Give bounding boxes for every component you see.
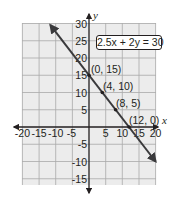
x-axis-label: x bbox=[161, 114, 167, 126]
point-label: (0, 15) bbox=[91, 63, 121, 75]
coordinate-plane: x y -20 -15 -10 -5 5 10 15 20 30 25 20 1… bbox=[0, 0, 176, 204]
x-tick-label: -15 bbox=[32, 127, 47, 139]
y-tick-label: 10 bbox=[75, 87, 87, 99]
point-label: (12, 0) bbox=[129, 114, 159, 126]
point-label: (8, 5) bbox=[116, 97, 141, 109]
y-tick-label: -5 bbox=[78, 138, 87, 150]
x-tick-label: 20 bbox=[150, 127, 162, 139]
x-tick-label: -20 bbox=[15, 127, 30, 139]
x-tick-label: 15 bbox=[133, 127, 145, 139]
y-tick-label: -15 bbox=[72, 173, 87, 185]
y-tick-label: 5 bbox=[81, 104, 87, 116]
x-tick-label: 5 bbox=[103, 127, 109, 139]
x-tick-label: -10 bbox=[48, 127, 63, 139]
point-label: (4, 10) bbox=[103, 80, 133, 92]
x-tick-label: 10 bbox=[116, 127, 128, 139]
x-tick-label: -5 bbox=[67, 127, 76, 139]
y-axis-label: y bbox=[92, 9, 98, 21]
y-tick-label: -10 bbox=[72, 156, 87, 168]
y-tick-label: 25 bbox=[75, 35, 87, 47]
equation-label-box: 2.5x + 2y = 30 bbox=[96, 35, 162, 50]
y-tick-label: 20 bbox=[75, 52, 87, 64]
y-tick-label: 30 bbox=[75, 18, 87, 30]
